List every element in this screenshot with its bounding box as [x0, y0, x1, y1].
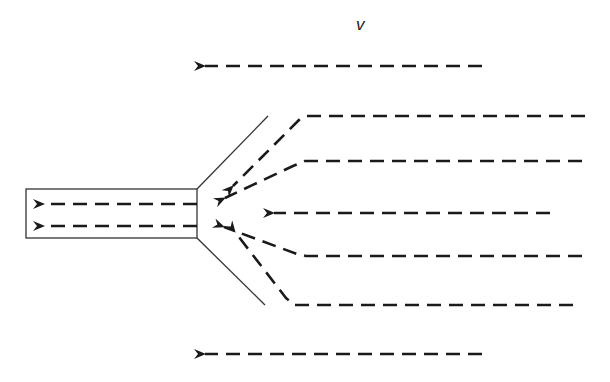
streamline-inflow-4: [224, 227, 582, 256]
streamline-inflow-2: [225, 161, 582, 198]
tube-and-funnel: [26, 116, 268, 305]
streamlines: [44, 66, 585, 354]
streamline-inflow-1: [233, 116, 585, 186]
tube-outline: [26, 189, 197, 238]
flow-diagram: [0, 0, 610, 382]
funnel-wall-top: [197, 116, 268, 189]
funnel-wall-bottom: [197, 238, 265, 305]
streamline-inflow-5: [235, 232, 573, 305]
